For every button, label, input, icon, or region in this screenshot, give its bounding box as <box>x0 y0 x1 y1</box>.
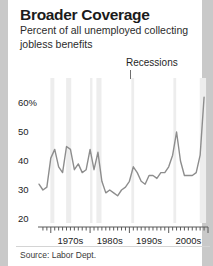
source-divider <box>16 246 210 247</box>
y-axis-tick-label: 20 <box>18 213 29 224</box>
x-axis-tick-label: 2000s <box>166 235 210 246</box>
x-axis-tick-label: 1990s <box>127 235 171 246</box>
x-axis-tick-label: 1970s <box>48 235 92 246</box>
y-axis-tick-label: 30 <box>18 184 29 195</box>
chart-subtitle: Percent of all unemployed collecting job… <box>20 24 195 51</box>
recession-bands-group <box>50 78 206 223</box>
recession-band <box>131 78 134 223</box>
y-axis-tick-label: 50 <box>18 126 29 137</box>
chart-svg <box>16 78 210 233</box>
page-title: Broader Coverage <box>20 6 150 23</box>
recessions-annotation-label: Recessions <box>126 57 178 68</box>
data-series-line <box>39 97 204 196</box>
y-axis-tick-label: 40 <box>18 155 29 166</box>
recession-band <box>96 78 101 223</box>
source-note: Source: Labor Dept. <box>20 250 96 260</box>
chart-axis-group <box>38 227 208 233</box>
x-axis-tick-label: 1980s <box>88 235 132 246</box>
y-axis-tick-label: 60% <box>18 97 37 108</box>
chart-plot-area: 2030405060% 1970s1980s1990s2000s <box>16 78 210 233</box>
chart-card: Broader Coverage Percent of all unemploy… <box>8 0 202 266</box>
chart-card-page: Broader Coverage Percent of all unemploy… <box>0 0 213 266</box>
